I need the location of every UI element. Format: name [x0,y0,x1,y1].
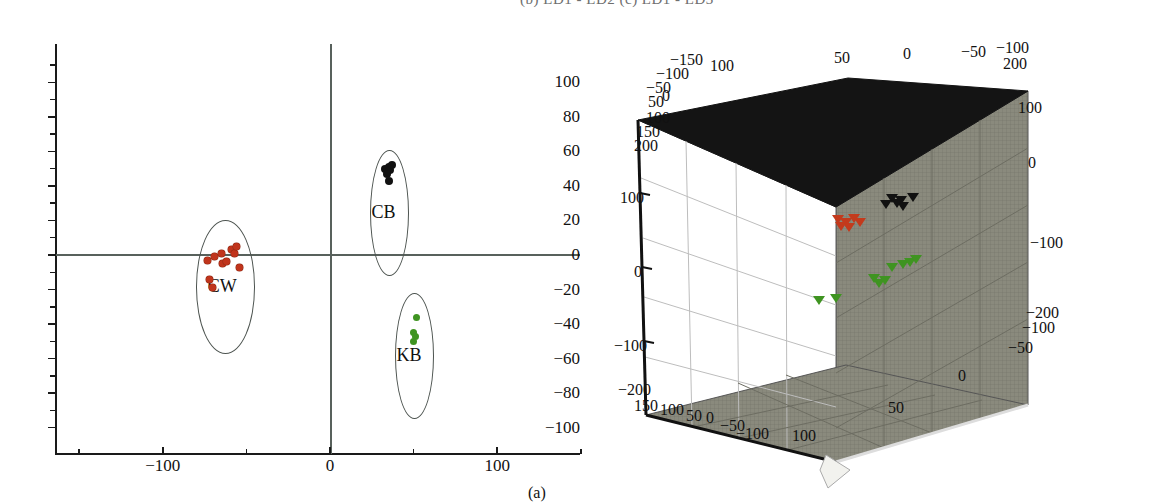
y-tick [48,82,55,84]
x-tick [162,447,164,454]
axis-tick-label-3d: 100 [710,58,734,74]
axis-tick-label-3d: 0 [958,368,966,384]
y-tick [48,116,55,118]
y-tick [48,220,55,222]
y-tick-label: 40 [538,177,580,194]
panel-b-3d-plot: −150−100−50500100150200100500−50−1002001… [598,0,1158,504]
y-tick-label: 0 [538,246,580,263]
axis-tick-label-3d: 50 [888,400,904,416]
data-point-cw [218,250,225,257]
y-tick-minor [50,202,55,204]
axis-tick-label-3d: 0 [1028,155,1036,171]
y-tick-label: −60 [538,350,580,367]
axis-tick-label-3d: 100 [620,190,644,206]
y-tick [48,185,55,187]
x-tick [329,447,331,454]
y-tick-label: 100 [538,73,580,90]
axis-tick-label-3d: 0 [903,46,911,62]
axis-tick-label-3d: −100 [1030,235,1063,251]
axis-tick-label-3d: −50 [1008,340,1033,356]
y-axis-frame [55,44,57,454]
x-axis-frame [55,453,580,455]
axis-tick-label-3d: −100 [614,338,647,354]
axis-tick-label-3d: 100 [660,402,684,418]
axis-tick-label-3d: 0 [634,264,642,280]
y-tick-minor [50,133,55,135]
axis-tick-label-3d: 150 [634,398,658,414]
panel-a-scatter-plot: −100−80−60−40−20020406080100 −1000100 CW… [0,14,580,504]
axis-tick-label-3d: 100 [792,428,816,444]
axis-tick-label-3d: −100 [736,426,769,442]
axis-tick-label-3d: −100 [996,40,1029,56]
x-tick-minor [580,449,582,454]
y-tick-label: 80 [538,108,580,125]
axis-tick-label-3d: 100 [1018,100,1042,116]
panel-a-caption: (a) [528,484,546,502]
figure-root: (b) LD1 - LD2 (c) LD1 - LD3 −100−80−60−4… [0,0,1158,504]
data-point-cw [236,264,243,271]
y-tick-label: −40 [538,315,580,332]
y-tick-label: −80 [538,384,580,401]
y-tick [48,358,55,360]
y-tick [48,254,55,256]
y-tick-minor [50,306,55,308]
y-tick [48,151,55,153]
data-point-cw [206,276,213,283]
vertical-zero-axis [330,44,332,454]
axis-tick-label-3d: −200 [618,382,651,398]
y-tick-minor [50,64,55,66]
x-tick-label: 0 [300,457,360,474]
horizontal-zero-axis [56,254,580,256]
y-tick-label: 60 [538,142,580,159]
axis-tick-label-3d: 50 [686,408,702,424]
y-tick-label: −20 [538,281,580,298]
y-tick-minor [50,375,55,377]
data-point-kb [410,338,417,345]
y-tick [48,289,55,291]
y-tick-minor [50,410,55,412]
y-tick-minor [50,341,55,343]
y-tick-label: −100 [538,419,580,436]
axis-tick-label-3d: 0 [706,410,714,426]
y-tick-minor [50,99,55,101]
axis-tick-label-3d: 200 [1003,56,1027,72]
data-point-cw [233,243,240,250]
axis-tick-label-3d: 50 [834,50,850,66]
y-tick-minor [50,272,55,274]
x-tick-minor [413,449,415,454]
y-tick-minor [50,237,55,239]
axis-tick-label-3d: 200 [634,138,658,154]
x-tick-label: −100 [133,457,193,474]
y-tick [48,323,55,325]
x-tick-label: 100 [467,457,527,474]
y-tick [48,392,55,394]
data-point-cb [385,177,393,185]
y-tick-minor [50,168,55,170]
data-point-cw [231,250,238,257]
cluster-label-cb: CB [372,203,396,221]
axis-tick-label-3d: −50 [961,44,986,60]
cluster-label-kb: KB [397,346,422,364]
axis-tick-label-3d: 0 [662,88,670,104]
y-tick-label: 20 [538,211,580,228]
x-tick-minor [246,449,248,454]
y-tick [48,427,55,429]
axis-tick-label-3d: −100 [1022,320,1055,336]
x-tick [496,447,498,454]
x-tick-minor [78,449,80,454]
